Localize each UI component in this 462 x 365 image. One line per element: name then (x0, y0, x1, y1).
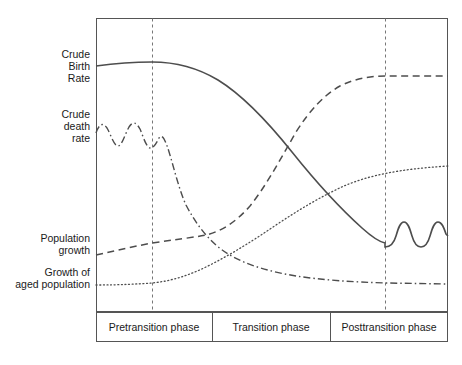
phase-bar: Pretransition phase Transition phase Pos… (96, 312, 448, 342)
plot-area (0, 0, 462, 365)
phase-label-transition: Transition phase (212, 312, 330, 342)
phase-label-posttransition: Posttransition phase (330, 312, 448, 342)
phase-label-pretransition: Pretransition phase (96, 312, 212, 342)
demographic-transition-chart: Crude Birth Rate Crude death rate Popula… (0, 0, 462, 365)
